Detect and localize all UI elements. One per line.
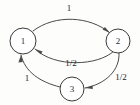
edge-1-to-2 [33,19,110,33]
node-1-label: 1 [21,36,26,46]
edge-1-to-2-path [33,19,110,33]
edge-3-to-1-label: 1 [25,73,30,83]
node-3-label: 3 [70,84,75,94]
node-2-label: 2 [116,36,121,46]
node-1[interactable]: 1 [10,28,36,54]
node-2[interactable]: 2 [106,29,130,53]
state-transition-diagram: 1 2 3 1 1/2 1/2 1 [0,0,140,105]
edge-2-to-1-label: 1/2 [65,58,77,68]
edge-2-to-3-label: 1/2 [115,72,127,82]
graph-canvas: 1 2 3 1 1/2 1/2 1 [0,0,140,105]
edge-1-to-2-label: 1 [67,3,72,13]
node-3[interactable]: 3 [60,77,84,101]
